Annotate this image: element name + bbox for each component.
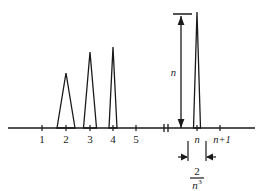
height-arrowhead-down [178,119,185,128]
height-arrowhead-up [178,16,185,25]
tick-label-4: 4 [110,133,116,145]
fraction-exponent: 3 [198,178,202,186]
tick-label-n: n [194,134,199,145]
tick-label-2: 2 [63,133,69,145]
diagram-canvas: 1 2 3 4 5 n n+1 [0,0,262,191]
fraction-numerator: 2 [194,165,200,177]
width-arrowhead-right [206,154,213,161]
tick-label-5: 5 [133,133,139,145]
width-arrowhead-left [181,154,188,161]
height-label-n: n [171,67,176,78]
spike-at-4 [109,47,117,128]
spike-at-3 [84,52,97,128]
tick-label-3: 3 [87,133,93,145]
width-fraction: 2 n 3 [190,165,204,191]
spike-function-figure: 1 2 3 4 5 n n+1 [0,0,262,191]
tick-label-1: 1 [39,133,45,145]
spike-at-n [194,12,201,128]
spike-at-2 [57,73,75,128]
tick-label-n-plus-1: n+1 [213,134,231,145]
